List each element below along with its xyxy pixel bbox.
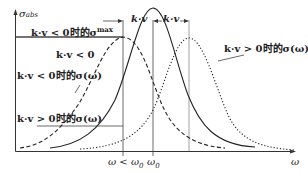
y-axis-label: σabs — [19, 9, 38, 19]
sigma-max-text: k·v < 0时的σ — [31, 27, 97, 38]
tick-omega-less-sub: 0 — [139, 162, 143, 170]
tick-omega0-text: ω — [147, 156, 155, 167]
leader-kv-negative — [75, 85, 80, 93]
kv-negative-sigma-label: k·v < 0时的σ(ω) — [17, 71, 102, 81]
tick-omega0-sub: 0 — [155, 162, 159, 170]
curve-kv-negative-dashed — [20, 37, 225, 148]
kv-positive-sigma-left-label: k·v > 0时的σ(ω) — [17, 114, 102, 124]
x-axis-label: ω — [291, 157, 299, 167]
shift-right-label: k·v — [163, 14, 179, 24]
kv-positive-sigma-right-label: k·v > 0时的σ(ω) — [224, 44, 308, 54]
arrow-left-icon — [153, 19, 158, 23]
arrow-right-icon — [184, 19, 189, 23]
y-axis-symbol: σ — [19, 8, 26, 19]
tick-omega-less-text: ω < ω — [108, 156, 139, 167]
shift-left-label: k·v — [131, 14, 147, 24]
sigma-max-label: k·v < 0时的σmax — [31, 26, 113, 38]
kv-negative-label: k·v < 0 — [56, 50, 95, 60]
tick-label-omega-less: ω < ω0 — [108, 157, 144, 170]
sigma-max-sup: max — [97, 25, 113, 34]
arrow-right-icon — [118, 19, 123, 23]
leader-kv-positive-right — [218, 55, 244, 61]
tick-label-omega0: ω0 — [147, 157, 160, 170]
y-axis-subscript: abs — [26, 11, 38, 19]
y-axis-arrow-icon — [14, 9, 18, 15]
